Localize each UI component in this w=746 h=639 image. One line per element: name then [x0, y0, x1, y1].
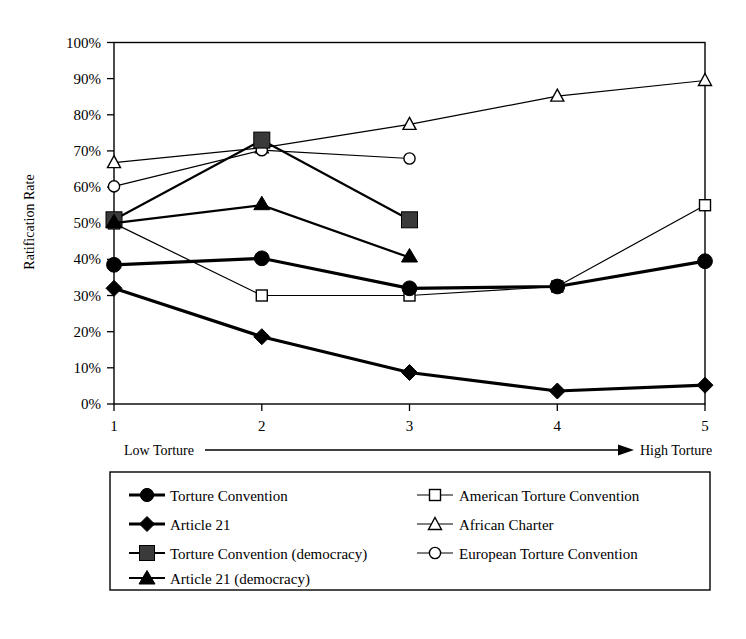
- y-tick-label: 50%: [74, 215, 102, 231]
- data-point-marker: [254, 132, 270, 148]
- x-tick-5: 5: [701, 404, 709, 434]
- chart-canvas: Ratification Rate 100% 90% 80% 70%: [0, 0, 746, 639]
- y-tick-label: 40%: [74, 251, 102, 267]
- y-tick-label: 30%: [74, 288, 102, 304]
- data-point-marker: [700, 200, 711, 211]
- x-tick-label: 5: [701, 418, 709, 434]
- data-point-marker: [698, 254, 713, 269]
- y-tick-label: 80%: [74, 107, 102, 123]
- data-point-marker: [404, 153, 415, 164]
- y-tick-0: 0%: [81, 396, 114, 412]
- data-point-marker: [107, 257, 122, 272]
- x-tick-4: 4: [554, 404, 562, 434]
- legend-item-article-21-democracy[interactable]: Article 21 (democracy): [129, 571, 310, 589]
- x-tick-label: 3: [406, 418, 414, 434]
- data-point-marker: [402, 212, 418, 228]
- legend-label: African Charter: [459, 517, 554, 533]
- y-tick-100: 100%: [66, 35, 114, 51]
- x-tick-3: 3: [406, 404, 414, 434]
- x-axis-ticks: 1 2 3 4 5: [110, 404, 709, 434]
- data-point-marker: [402, 281, 417, 296]
- legend-item-article-21[interactable]: Article 21: [129, 517, 230, 534]
- low-torture-label: Low Torture: [124, 443, 194, 458]
- y-tick-90: 90%: [74, 71, 115, 87]
- y-tick-label: 10%: [74, 360, 102, 376]
- x-tick-1: 1: [110, 404, 118, 434]
- chart-legend: Torture Convention American Torture Conv…: [110, 472, 710, 590]
- data-point-marker: [256, 290, 267, 301]
- x-tick-label: 1: [110, 418, 118, 434]
- legend-label: Article 21 (democracy): [170, 571, 310, 588]
- legend-item-american-torture-convention[interactable]: American Torture Convention: [417, 488, 640, 504]
- legend-item-european-torture-convention[interactable]: European Torture Convention: [417, 546, 638, 562]
- legend-item-torture-convention[interactable]: Torture Convention: [129, 488, 288, 504]
- legend-label: American Torture Convention: [459, 488, 640, 504]
- data-point-marker: [254, 251, 269, 266]
- y-axis-title: Ratification Rate: [22, 174, 37, 269]
- open-circle-icon: [429, 547, 440, 558]
- legend-item-torture-convention-democracy[interactable]: Torture Convention (democracy): [129, 546, 367, 564]
- y-tick-label: 100%: [66, 35, 101, 51]
- x-tick-label: 2: [258, 418, 266, 434]
- data-point-marker: [108, 181, 119, 192]
- legend-label: Article 21: [170, 517, 230, 533]
- x-tick-2: 2: [258, 404, 266, 434]
- y-tick-70: 70%: [74, 143, 115, 159]
- legend-label: Torture Convention (democracy): [170, 546, 367, 563]
- open-square-icon: [430, 490, 441, 501]
- y-tick-label: 20%: [74, 324, 102, 340]
- y-tick-label: 0%: [81, 396, 101, 412]
- legend-label: Torture Convention: [170, 488, 288, 504]
- y-tick-label: 90%: [74, 71, 102, 87]
- data-point-marker: [550, 279, 565, 294]
- filled-circle-icon: [140, 488, 153, 501]
- legend-item-african-charter[interactable]: African Charter: [417, 517, 554, 533]
- y-tick-80: 80%: [74, 107, 115, 123]
- filled-diamond-icon: [140, 517, 155, 532]
- y-tick-10: 10%: [74, 360, 115, 376]
- x-tick-label: 4: [554, 418, 562, 434]
- y-tick-label: 70%: [74, 143, 102, 159]
- y-tick-20: 20%: [74, 324, 115, 340]
- legend-label: European Torture Convention: [459, 546, 638, 562]
- y-tick-label: 60%: [74, 179, 102, 195]
- arrow-head-icon: [618, 445, 634, 456]
- x-axis-annotation: Low Torture High Torture: [124, 443, 712, 458]
- y-axis-title-text: Ratification Rate: [22, 174, 37, 269]
- shaded-square-icon: [140, 546, 155, 561]
- high-torture-label: High Torture: [640, 443, 712, 458]
- chart-figure: Ratification Rate 100% 90% 80% 70%: [0, 0, 746, 639]
